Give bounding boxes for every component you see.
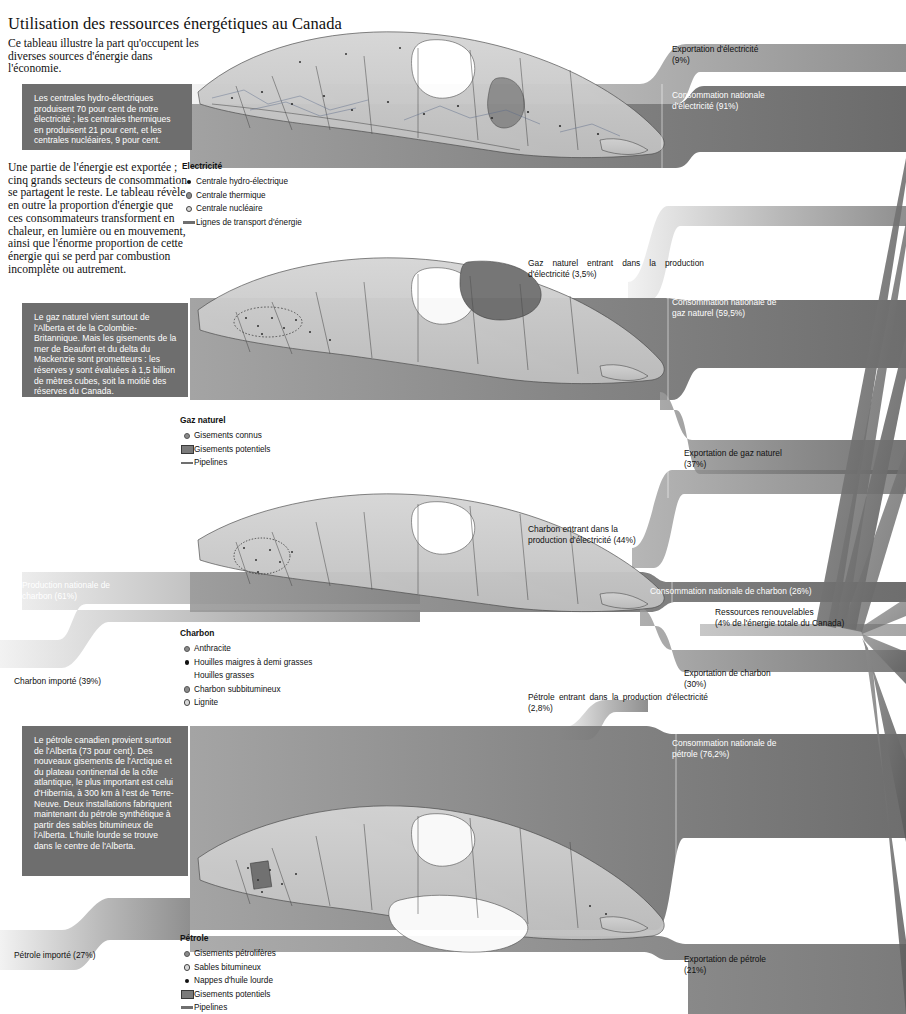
legend-item-label: Charbon subbitumineux: [194, 683, 280, 696]
intro-paragraph-2: Une partie de l'énergie est exportée ; c…: [8, 162, 188, 276]
dot-mid-icon: [182, 192, 196, 199]
flow-label-gaz-vers-electricite: Gaz naturel entrant dans la production d…: [528, 258, 704, 281]
flow-label-petrole-vers-electricite: Pétrole entrant dans la production d'éle…: [528, 692, 708, 715]
legend-item: Centrale nucléaire: [182, 202, 302, 215]
legend-item: Gisements potentiels: [180, 988, 276, 1001]
legend-item: Centrale hydro-électrique: [182, 175, 302, 188]
line-icon: [180, 462, 194, 465]
note-gaz-naturel: Le gaz naturel vient surtout de l'Albert…: [22, 303, 188, 397]
dot-solid-icon: [180, 660, 194, 665]
ribbon-gaz-vers-electricite: [628, 206, 906, 300]
legend-item: Lignes de transport d'énergie: [182, 216, 302, 229]
legend-item-label: Gisements connus: [194, 429, 262, 442]
legend-electricite: Electricité Centrale hydro-électrique Ce…: [182, 160, 302, 229]
legend-item-label: Pipelines: [194, 456, 227, 469]
legend-item: Gisements pétrolifères: [180, 947, 276, 960]
legend-item-label: Anthracite: [194, 642, 231, 655]
legend-item-label: Lignes de transport d'énergie: [196, 216, 302, 229]
dot-open-icon: [182, 206, 196, 213]
flow-label-charbon-importe: Charbon importé (39%): [14, 676, 194, 687]
line-icon: [182, 221, 196, 224]
flow-label-production-charbon: Production nationale decharbon (61%): [22, 580, 192, 603]
legend-item: Gisements connus: [180, 429, 270, 442]
legend-item: Pipelines: [180, 1001, 276, 1014]
line-icon: [180, 1006, 194, 1009]
map-canada-electricite: [198, 32, 664, 158]
flow-label-consommation-electricite: Consommation nationaled'électricité (91%…: [672, 90, 862, 113]
dot-solid-icon: [182, 180, 196, 185]
legend-item-label: Houilles grasses: [194, 669, 254, 682]
flow-label-petrole-importe: Pétrole importé (27%): [14, 950, 194, 961]
flow-label-consommation-petrole: Consommation nationale depétrole (76,2%): [672, 738, 858, 761]
legend-item: Gisements potentiels: [180, 443, 270, 456]
legend-item: Houilles maigres à demi grasses: [180, 656, 312, 669]
legend-item: Sables bitumineux: [180, 961, 276, 974]
legend-item-label: Gisements pétrolifères: [194, 947, 276, 960]
legend-item-label: Nappes d'huile lourde: [194, 974, 273, 987]
dot-open-icon: [180, 699, 194, 706]
legend-charbon: Charbon Anthracite Houilles maigres à de…: [180, 627, 312, 709]
legend-item: Houilles grasses: [180, 669, 312, 682]
flow-label-ressources-renouvelables: Ressources renouvelables(4% de l'énergie…: [715, 607, 901, 630]
legend-item: Charbon subbitumineux: [180, 683, 312, 696]
ribbon-charbon-vers-electricite: [632, 470, 906, 568]
legend-gaz-naturel: Gaz naturel Gisements connus Gisements p…: [180, 414, 270, 470]
flow-label-charbon-vers-electricite: Charbon entrant dans laproduction d'élec…: [528, 524, 708, 547]
flow-label-exportation-charbon: Exportation de charbon(30%): [684, 668, 864, 691]
flow-label-exportation-petrole: Exportation de pétrole(21%): [684, 954, 864, 977]
legend-item-label: Lignite: [194, 696, 218, 709]
legend-title: Gaz naturel: [180, 414, 270, 427]
legend-item-label: Sables bitumineux: [194, 961, 261, 974]
dot-solid-icon: [180, 979, 194, 984]
legend-item-label: Centrale thermique: [196, 189, 266, 202]
legend-title: Pétrole: [180, 932, 276, 945]
legend-item: Pipelines: [180, 456, 270, 469]
flow-label-exportation-electricite: Exportation d'électricité(9%): [672, 44, 852, 67]
swatch-icon: [180, 990, 194, 999]
legend-item: Centrale thermique: [182, 189, 302, 202]
note-petrole: Le pétrole canadien provient surtout de …: [22, 726, 188, 876]
map-canada-charbon: [198, 494, 664, 612]
legend-item: Nappes d'huile lourde: [180, 974, 276, 987]
dot-mid-icon: [180, 433, 194, 440]
legend-item: Anthracite: [180, 642, 312, 655]
dot-mid-icon: [180, 646, 194, 653]
page-title: Utilisation des ressources énergétiques …: [8, 14, 342, 34]
legend-item-label: Centrale hydro-électrique: [196, 175, 288, 188]
legend-item-label: Pipelines: [194, 1001, 227, 1014]
flow-label-exportation-gaz: Exportation de gaz naturel(37%): [684, 448, 864, 471]
legend-item-label: Gisements potentiels: [194, 988, 270, 1001]
legend-petrole: Pétrole Gisements pétrolifères Sables bi…: [180, 932, 276, 1014]
swatch-icon: [180, 445, 194, 454]
dot-open-icon: [180, 964, 194, 971]
flow-label-consommation-gaz: Consommation nationale degaz naturel (59…: [672, 297, 852, 320]
intro-paragraph-1: Ce tableau illustre la part qu'occupent …: [8, 38, 208, 76]
legend-title: Charbon: [180, 627, 312, 640]
flow-label-consommation-charbon: Consommation nationale de charbon (26%): [650, 586, 880, 597]
note-electricite: Les centrales hydro-électriques produise…: [22, 84, 192, 150]
map-canada-petrole: [198, 806, 664, 952]
legend-item-label: Houilles maigres à demi grasses: [194, 656, 312, 669]
legend-item: Lignite: [180, 696, 312, 709]
legend-item-label: Centrale nucléaire: [196, 202, 262, 215]
legend-title: Electricité: [182, 160, 302, 173]
legend-item-label: Gisements potentiels: [194, 443, 270, 456]
infographic-canvas: Utilisation des ressources énergétiques …: [0, 0, 906, 1014]
